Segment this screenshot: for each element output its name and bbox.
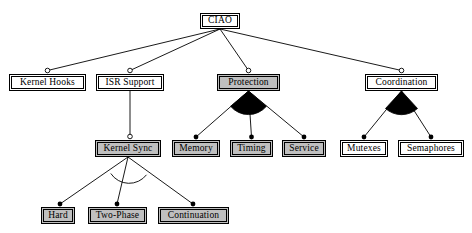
diagram-edges-layer (0, 0, 472, 233)
filled-dot-endpoint-continuation (191, 202, 196, 207)
filled-dot-endpoint-two-phase (115, 202, 120, 207)
node-label: Two-Phase (94, 211, 141, 221)
edge-coordination-mutexes (362, 91, 402, 139)
filled-dot-endpoint-semaphores (429, 135, 434, 140)
hollow-circle-endpoint-kernel-hooks (45, 68, 50, 73)
edge-kernel-sync-continuation (128, 157, 195, 206)
node-continuation[interactable]: Continuation (158, 207, 229, 224)
node-label: Mutexes (345, 144, 383, 154)
edge-kernel-sync-hard (58, 157, 128, 206)
node-label: Service (287, 144, 321, 154)
node-label: Timing (235, 144, 268, 154)
node-label: Protection (226, 78, 271, 88)
node-hard[interactable]: Hard (41, 207, 75, 224)
node-label: Kernel Hooks (18, 78, 77, 88)
node-kernel-hooks[interactable]: Kernel Hooks (9, 74, 86, 91)
node-label: Memory (177, 144, 215, 154)
node-memory[interactable]: Memory (172, 140, 220, 157)
node-two-phase[interactable]: Two-Phase (88, 207, 147, 224)
diagram-canvas: CIAO Kernel Hooks ISR Support Protection… (0, 0, 472, 233)
hollow-circle-endpoint-coordination (399, 68, 404, 73)
hollow-circle-endpoint-isr-support (128, 68, 133, 73)
edge-isr-support-kernel-sync (128, 91, 133, 139)
node-label: Semaphores (405, 144, 457, 154)
node-label: Coordination (374, 78, 430, 88)
node-service[interactable]: Service (282, 140, 326, 157)
hollow-circle-endpoint-protection (246, 68, 251, 73)
filled-dot-endpoint-timing (249, 135, 254, 140)
node-kernel-sync[interactable]: Kernel Sync (95, 140, 161, 157)
edge-coordination-semaphores (402, 91, 434, 139)
edge-protection-timing (249, 91, 254, 139)
edge-protection-service (249, 91, 307, 139)
edge-ciao-kernel-hooks (45, 29, 220, 73)
filled-arc-group-marker-coordination (386, 91, 418, 115)
node-isr-support[interactable]: ISR Support (96, 74, 164, 91)
node-ciao[interactable]: CIAO (200, 13, 240, 29)
node-protection[interactable]: Protection (217, 74, 280, 91)
filled-dot-endpoint-hard (58, 202, 63, 207)
node-semaphores[interactable]: Semaphores (398, 140, 464, 157)
edge-ciao-isr-support (128, 29, 220, 73)
node-label: ISR Support (104, 78, 157, 88)
node-label: Kernel Sync (102, 144, 155, 154)
edge-ciao-protection (220, 29, 251, 73)
filled-dot-endpoint-mutexes (362, 135, 367, 140)
open-arc-group-marker-kernel-sync (111, 174, 147, 184)
filled-dot-endpoint-memory (194, 135, 199, 140)
node-mutexes[interactable]: Mutexes (340, 140, 388, 157)
node-label: CIAO (206, 16, 234, 26)
edge-ciao-coordination (220, 29, 404, 73)
hollow-circle-endpoint-kernel-sync (128, 134, 133, 139)
node-label: Hard (46, 211, 70, 221)
node-timing[interactable]: Timing (230, 140, 273, 157)
filled-dot-endpoint-service (302, 135, 307, 140)
edge-protection-memory (194, 91, 249, 139)
edge-kernel-sync-two-phase (115, 157, 128, 206)
filled-arc-group-marker-protection (231, 91, 267, 115)
node-coordination[interactable]: Coordination (365, 74, 438, 91)
node-label: Continuation (166, 211, 221, 221)
